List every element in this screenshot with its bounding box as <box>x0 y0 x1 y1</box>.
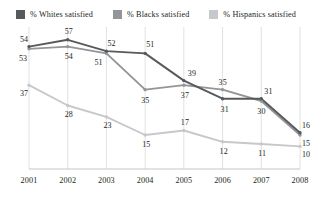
data-point[interactable] <box>27 83 30 86</box>
data-point[interactable] <box>105 115 108 118</box>
data-label: 35 <box>141 96 149 105</box>
data-label: 37 <box>20 89 28 98</box>
data-point[interactable] <box>221 140 224 143</box>
data-label: 54 <box>65 52 73 61</box>
x-tick-label: 2007 <box>253 176 270 186</box>
plot-svg <box>0 27 324 175</box>
data-label: 39 <box>188 69 196 78</box>
data-label: 15 <box>142 140 150 149</box>
chart-legend: % Whites satisfied % Blacks satisfied % … <box>0 5 324 23</box>
chart-container: % Whites satisfied % Blacks satisfied % … <box>0 0 324 201</box>
data-point[interactable] <box>182 83 185 86</box>
data-label: 28 <box>65 110 73 119</box>
legend-swatch-whites-icon <box>16 10 25 19</box>
legend-label-whites: % Whites satisfied <box>30 10 93 19</box>
x-tick-label: 2006 <box>214 176 231 186</box>
data-point[interactable] <box>260 97 263 100</box>
data-point[interactable] <box>143 88 146 91</box>
data-label: 54 <box>20 35 28 44</box>
data-point[interactable] <box>221 88 224 91</box>
legend-swatch-blacks-icon <box>113 10 122 19</box>
data-point[interactable] <box>182 79 185 82</box>
x-tick-label: 2001 <box>21 176 38 186</box>
data-label: 31 <box>264 87 272 96</box>
x-tick-label: 2008 <box>292 176 309 186</box>
legend-item-whites[interactable]: % Whites satisfied <box>16 10 93 19</box>
data-label: 30 <box>257 107 265 116</box>
x-tick-label: 2005 <box>175 176 192 186</box>
data-label: 15 <box>302 139 310 148</box>
data-point[interactable] <box>221 97 224 100</box>
data-point[interactable] <box>66 38 69 41</box>
x-axis-labels: 20012002200320042005200620072008 <box>0 176 324 192</box>
data-point[interactable] <box>143 52 146 55</box>
x-tick-label: 2002 <box>59 176 76 186</box>
data-label: 17 <box>181 118 189 127</box>
data-point[interactable] <box>105 49 108 52</box>
data-label: 37 <box>181 91 189 100</box>
data-label: 52 <box>107 39 115 48</box>
data-point[interactable] <box>260 142 263 145</box>
data-label: 51 <box>146 40 154 49</box>
data-label: 10 <box>302 150 310 159</box>
data-label: 16 <box>302 121 310 130</box>
data-label: 51 <box>94 58 102 67</box>
legend-label-hispanics: % Hispanics satisfied <box>223 10 296 19</box>
data-label: 23 <box>103 121 111 130</box>
legend-item-blacks[interactable]: % Blacks satisfied <box>113 10 189 19</box>
data-label: 12 <box>220 147 228 156</box>
data-point[interactable] <box>27 45 30 48</box>
plot-area <box>0 27 324 175</box>
x-tick-label: 2003 <box>98 176 115 186</box>
data-label: 53 <box>19 54 27 63</box>
legend-label-blacks: % Blacks satisfied <box>127 10 189 19</box>
data-label: 35 <box>219 78 227 87</box>
data-label: 57 <box>65 27 73 36</box>
data-point[interactable] <box>298 131 301 134</box>
data-point[interactable] <box>143 133 146 136</box>
data-point[interactable] <box>66 45 69 48</box>
data-label: 11 <box>258 149 266 158</box>
legend-item-hispanics[interactable]: % Hispanics satisfied <box>209 10 296 19</box>
data-point[interactable] <box>182 129 185 132</box>
legend-swatch-hispanics-icon <box>209 10 218 19</box>
data-label: 31 <box>221 105 229 114</box>
x-tick-label: 2004 <box>137 176 154 186</box>
data-point[interactable] <box>66 104 69 107</box>
